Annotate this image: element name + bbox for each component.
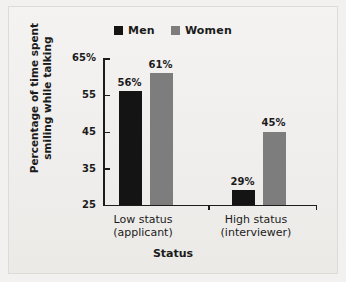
legend-label-women: Women [185, 25, 232, 36]
x-category-low-status-line-2: (applicant) [88, 226, 198, 239]
x-tick-end [316, 205, 318, 210]
y-axis-title-line-2: smiling while talking [41, 8, 54, 188]
bar-value-men-high-status: 29% [222, 177, 263, 187]
y-tick-label-45: 45 [56, 127, 96, 137]
bar-value-women-high-status: 45% [253, 118, 294, 128]
x-category-label-low-status: Low status (applicant) [88, 213, 198, 239]
x-category-high-status-line-1: High status [201, 213, 311, 226]
bar-men-low-status[interactable] [119, 91, 142, 205]
y-tick-label-35: 35 [56, 164, 96, 174]
legend-item-men: Men [114, 25, 155, 36]
y-axis-title: Percentage of time spent smiling while t… [28, 8, 54, 188]
x-axis-title: Status [0, 248, 346, 259]
y-tick-label-25: 25 [56, 200, 96, 210]
bar-men-high-status[interactable] [232, 190, 255, 205]
y-tick-label-65: 65% [56, 53, 96, 63]
legend-swatch-women-icon [171, 26, 180, 35]
bar-women-high-status[interactable] [263, 132, 286, 206]
x-tick-mid [208, 205, 210, 210]
x-category-low-status-line-1: Low status [88, 213, 198, 226]
bar-value-women-low-status: 61% [140, 60, 181, 70]
legend-swatch-men-icon [114, 26, 123, 35]
x-category-high-status-line-2: (interviewer) [201, 226, 311, 239]
bar-value-men-low-status: 56% [109, 78, 150, 88]
legend-item-women: Women [171, 25, 232, 36]
x-category-label-high-status: High status (interviewer) [201, 213, 311, 239]
bar-women-low-status[interactable] [150, 73, 173, 205]
y-tick-label-55: 55 [56, 90, 96, 100]
y-axis-title-line-1: Percentage of time spent [28, 8, 41, 188]
legend-label-men: Men [128, 25, 155, 36]
bar-chart-figure: Men Women Percentage of time spent smili… [0, 0, 346, 282]
